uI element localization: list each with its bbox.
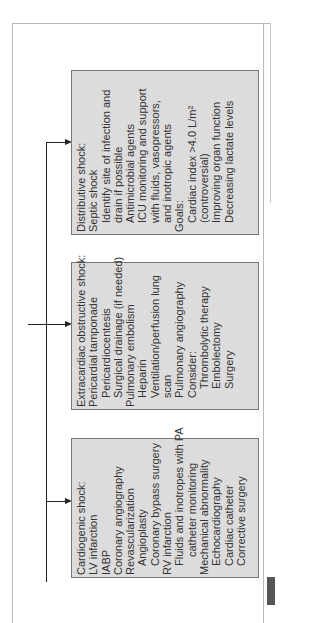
box-line: Coronary angiography xyxy=(112,443,124,575)
box-line: Goals: xyxy=(173,75,185,232)
box-line: Heparin xyxy=(136,267,148,407)
box-line: Angioplasty xyxy=(136,443,148,575)
box-line: scan xyxy=(161,267,173,407)
box-line: Pericardiocentesis xyxy=(100,267,112,407)
vertical-trunk xyxy=(46,142,47,582)
box-line: Cardiac index >4.0 L/m² xyxy=(186,75,198,232)
box-line: Decreasing lactate levels xyxy=(223,75,235,232)
box-line: Corrective surgery xyxy=(235,443,247,575)
box-line: Echocardiography xyxy=(210,443,222,575)
box-line: and inotropic agents xyxy=(161,75,173,232)
box-distributive-text: Distributive shock:Septic shockIdentify … xyxy=(72,71,238,236)
box-line: RV infarction xyxy=(161,443,173,575)
box-title: Extracardiac obstructive shock: xyxy=(75,267,87,407)
box-line: Surgical drainage (if needed) xyxy=(112,267,124,407)
box-line: Antimicrobial agents xyxy=(124,75,136,232)
box-line: Improving organ function xyxy=(210,75,222,232)
box-line: Revascularization xyxy=(124,443,136,575)
box-line: Thrombolytic therapy xyxy=(198,267,210,407)
box-distributive-shock: Distributive shock:Septic shockIdentify … xyxy=(71,70,259,235)
branch-extracardiac xyxy=(46,324,66,325)
box-line: IABP xyxy=(100,443,112,575)
page-tab-marker xyxy=(267,577,275,605)
branch-cardiogenic xyxy=(46,501,66,502)
box-line: Fluids and inotropes with PA xyxy=(173,443,185,575)
box-title: Distributive shock: xyxy=(75,75,87,232)
box-line: Consider: xyxy=(186,267,198,407)
box-line: with fluids, vasopressors, xyxy=(149,75,161,232)
box-line: Pulmonary angiography xyxy=(173,267,185,407)
frame-right-edge xyxy=(270,23,271,203)
box-line: ICU monitoring and support xyxy=(136,75,148,232)
box-line: Septic shock xyxy=(87,75,99,232)
box-line: Mechanical abnormality xyxy=(198,443,210,575)
box-cardiogenic-shock: Cardiogenic shock:LV infarctionIABPCoron… xyxy=(71,438,259,578)
box-line: drain if possible xyxy=(112,75,124,232)
box-extracardiac-text: Extracardiac obstructive shock:Pericardi… xyxy=(72,263,238,411)
box-line: Pulmonary embolism xyxy=(124,267,136,407)
box-line: Ventilation/perfusion lung xyxy=(149,267,161,407)
box-title: Cardiogenic shock: xyxy=(75,443,87,575)
box-extracardiac-obstructive-shock: Extracardiac obstructive shock:Pericardi… xyxy=(71,262,259,410)
box-line: catheter monitoring xyxy=(186,443,198,575)
box-cardiogenic-text: Cardiogenic shock:LV infarctionIABPCoron… xyxy=(72,439,250,579)
box-line: Embolectomy xyxy=(210,267,222,407)
box-line: LV infarction xyxy=(87,443,99,575)
box-line: Coronary bypass surgery xyxy=(149,443,161,575)
box-line: Surgery xyxy=(223,267,235,407)
box-line: Cardiac catheter xyxy=(223,443,235,575)
incoming-connector xyxy=(28,324,46,325)
box-line: Pericardial tamponade xyxy=(87,267,99,407)
branch-distributive xyxy=(46,142,66,143)
box-line: Identify site of infection and xyxy=(100,75,112,232)
box-line: (controversial) xyxy=(198,75,210,232)
